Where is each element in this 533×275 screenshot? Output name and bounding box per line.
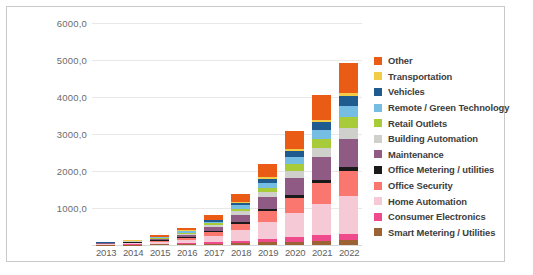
legend-item[interactable]: Home Automation xyxy=(374,193,514,209)
x-axis-tick-label: 2019 xyxy=(258,247,277,258)
legend-item[interactable]: Transportation xyxy=(374,69,514,85)
bar-segment xyxy=(339,171,358,197)
bar-segment xyxy=(339,106,358,117)
legend-item[interactable]: Office Security xyxy=(374,178,514,194)
x-axis-tick-label: 2020 xyxy=(285,247,304,258)
bar-segment xyxy=(312,139,331,148)
legend-item-label: Office Metering / utilities xyxy=(388,164,494,175)
legend-item-label: Maintenance xyxy=(388,149,444,160)
y-axis-tick-label: 5000,0 xyxy=(31,55,87,66)
bar-segment xyxy=(231,230,250,240)
legend-item[interactable]: Retail Outlets xyxy=(374,115,514,131)
legend-item[interactable]: Other xyxy=(374,53,514,69)
bar-segment xyxy=(258,211,277,222)
bar-segment xyxy=(285,242,304,246)
y-axis-tick-label: 2000,0 xyxy=(31,166,87,177)
legend-item-label: Consumer Electronics xyxy=(388,211,486,222)
y-axis-tick-label: 4000,0 xyxy=(31,92,87,103)
legend-swatch-icon xyxy=(374,104,382,112)
legend-item-label: Remote / Green Technology xyxy=(388,102,509,113)
legend-item-label: Vehicles xyxy=(388,86,425,97)
x-axis-tick-label: 2014 xyxy=(123,247,142,258)
bar-segment xyxy=(285,171,304,178)
bar-segment xyxy=(150,244,169,245)
bar-segment xyxy=(339,96,358,106)
legend-item[interactable]: Building Automation xyxy=(374,131,514,147)
legend-swatch-icon xyxy=(374,166,382,174)
x-axis-tick-label: 2022 xyxy=(339,247,358,258)
bar-segment xyxy=(285,213,304,237)
gridline xyxy=(92,245,362,246)
bar-segment xyxy=(231,224,250,231)
legend-swatch-icon xyxy=(374,88,382,96)
legend-swatch-icon xyxy=(374,197,382,205)
legend-swatch-icon xyxy=(374,57,382,65)
bar-segment xyxy=(339,196,358,234)
bar-group xyxy=(92,23,362,245)
legend-swatch-icon xyxy=(374,182,382,190)
x-axis-tick-label: 2021 xyxy=(312,247,331,258)
bar-segment xyxy=(312,130,331,139)
legend-swatch-icon xyxy=(374,72,382,80)
legend-item-label: Retail Outlets xyxy=(388,118,447,129)
plot-area xyxy=(92,23,362,245)
bar-segment xyxy=(339,139,358,167)
legend-swatch-icon xyxy=(374,119,382,127)
x-axis-tick-label: 2015 xyxy=(150,247,169,258)
legend-item-label: Building Automation xyxy=(388,133,478,144)
bar-segment xyxy=(339,63,358,93)
bar-segment xyxy=(258,164,277,177)
bar-segment xyxy=(231,215,250,223)
bar-segment xyxy=(339,128,358,139)
bar-segment xyxy=(312,183,331,204)
legend-item-label: Transportation xyxy=(388,71,452,82)
y-axis-tick-label: 1000,0 xyxy=(31,203,87,214)
legend-item-label: Home Automation xyxy=(388,196,467,207)
legend-item[interactable]: Remote / Green Technology xyxy=(374,100,514,116)
bar-2013[interactable] xyxy=(96,23,115,245)
bar-2021[interactable] xyxy=(312,23,331,245)
bar-segment xyxy=(258,242,277,245)
legend-swatch-icon xyxy=(374,150,382,158)
bar-2020[interactable] xyxy=(285,23,304,245)
y-axis-tick-label: 6000,0 xyxy=(31,18,87,29)
bar-segment xyxy=(231,243,250,245)
y-axis: 1000,02000,03000,04000,05000,06000,0 xyxy=(25,23,87,245)
x-axis-tick-label: 2016 xyxy=(177,247,196,258)
legend-item[interactable]: Consumer Electronics xyxy=(374,209,514,225)
legend-item-label: Other xyxy=(388,55,413,66)
y-axis-tick-label: 3000,0 xyxy=(31,129,87,140)
bar-segment xyxy=(258,222,277,239)
legend-item[interactable]: Vehicles xyxy=(374,84,514,100)
legend-item-label: Smart Metering / Utilities xyxy=(388,227,495,238)
chart-frame: 1000,02000,03000,04000,05000,06000,0 201… xyxy=(6,6,505,262)
legend-item[interactable]: Office Metering / utilities xyxy=(374,162,514,178)
bar-segment xyxy=(285,131,304,150)
bar-segment xyxy=(312,122,331,130)
bar-segment xyxy=(312,241,331,245)
bar-segment xyxy=(339,240,358,245)
chart-legend: OtherTransportationVehiclesRemote / Gree… xyxy=(374,53,514,240)
bar-2017[interactable] xyxy=(204,23,223,245)
bar-2022[interactable] xyxy=(339,23,358,245)
bar-segment xyxy=(339,117,358,127)
bar-2016[interactable] xyxy=(177,23,196,245)
bar-segment xyxy=(285,178,304,195)
bar-segment xyxy=(231,194,250,202)
bar-segment xyxy=(312,157,331,180)
legend-swatch-icon xyxy=(374,228,382,236)
bar-2019[interactable] xyxy=(258,23,277,245)
bar-segment xyxy=(312,95,331,119)
x-axis: 2013201420152016201720182019202020212022 xyxy=(92,247,362,263)
bar-segment xyxy=(285,157,304,164)
bar-2015[interactable] xyxy=(150,23,169,245)
bar-2018[interactable] xyxy=(231,23,250,245)
x-axis-tick-label: 2017 xyxy=(204,247,223,258)
bar-segment xyxy=(177,244,196,245)
bar-2014[interactable] xyxy=(123,23,142,245)
bar-segment xyxy=(204,244,223,245)
x-axis-tick-label: 2018 xyxy=(231,247,250,258)
legend-item[interactable]: Smart Metering / Utilities xyxy=(374,225,514,241)
legend-item[interactable]: Maintenance xyxy=(374,147,514,163)
x-axis-tick-label: 2013 xyxy=(96,247,115,258)
